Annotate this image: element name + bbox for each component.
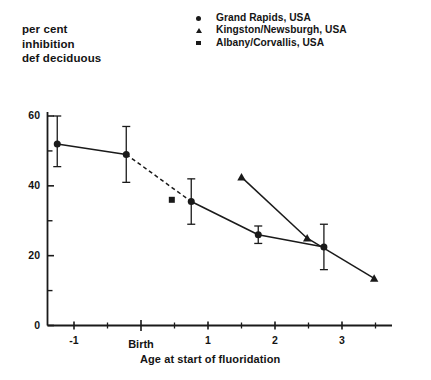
y-tick-label-20: 20 <box>14 249 40 261</box>
data-point-circle-2 <box>188 198 195 205</box>
x-tick-label-birth: Birth <box>111 338 171 350</box>
series-0-segment-2 <box>191 202 258 235</box>
data-point-triangle-0 <box>237 173 245 180</box>
series-0-segment-0 <box>57 144 126 154</box>
plot-area <box>0 0 431 380</box>
x-tick-label-2: 2 <box>245 334 305 346</box>
data-point-circle-0 <box>54 140 61 147</box>
axis-lines <box>48 112 393 331</box>
data-point-circle-3 <box>255 231 262 238</box>
x-tick-label-1: -1 <box>44 334 104 346</box>
x-tick-label-3: 3 <box>312 334 372 346</box>
data-point-circle-1 <box>123 151 130 158</box>
y-tick-label-0: 0 <box>14 319 40 331</box>
data-series-layer <box>53 116 378 282</box>
data-point-triangle-2 <box>370 274 378 281</box>
y-tick-label-40: 40 <box>14 179 40 191</box>
series-0-segment-3 <box>258 235 324 247</box>
series-1-segment-1 <box>307 238 374 278</box>
data-point-square-0 <box>169 197 175 203</box>
x-tick-label-1: 1 <box>178 334 238 346</box>
series-1-segment-0 <box>242 177 308 238</box>
series-0-segment-1 <box>126 154 191 201</box>
x-axis-caption: Age at start of fluoridation <box>140 353 280 365</box>
chart-figure: per cent inhibition def deciduous Grand … <box>0 0 431 380</box>
y-tick-label-60: 60 <box>14 109 40 121</box>
